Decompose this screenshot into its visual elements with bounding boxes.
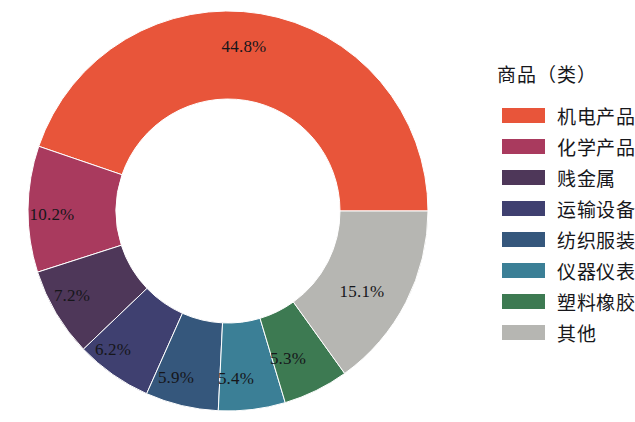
slice-percentage-label: 44.8% xyxy=(222,37,267,57)
legend-item-label: 运输设备 xyxy=(557,195,635,222)
legend-item[interactable]: 贱金属 xyxy=(470,163,630,191)
legend-color-swatch xyxy=(502,201,545,216)
legend-item-label: 纺织服装 xyxy=(557,226,635,253)
legend-item-label: 仪器仪表 xyxy=(557,257,635,284)
legend-item[interactable]: 纺织服装 xyxy=(470,225,630,253)
legend-color-swatch xyxy=(502,232,545,247)
legend-item[interactable]: 运输设备 xyxy=(470,194,630,222)
legend-color-swatch xyxy=(502,325,545,340)
legend-item-label: 塑料橡胶 xyxy=(557,288,635,315)
legend-title: 商品（类） xyxy=(470,60,630,87)
legend-color-swatch xyxy=(502,139,545,154)
donut-slice-group xyxy=(28,11,428,411)
legend-item-label: 其他 xyxy=(557,319,596,346)
legend-color-swatch xyxy=(502,108,545,123)
slice-percentage-label: 5.9% xyxy=(158,368,194,388)
legend-item[interactable]: 仪器仪表 xyxy=(470,256,630,284)
slice-percentage-label: 15.1% xyxy=(340,282,385,302)
slice-percentage-label: 10.2% xyxy=(30,205,75,225)
chart-legend: 商品（类） 机电产品化学产品贱金属运输设备纺织服装仪器仪表塑料橡胶其他 xyxy=(470,60,630,349)
slice-percentage-label: 6.2% xyxy=(95,340,131,360)
legend-item-label: 贱金属 xyxy=(557,164,616,191)
legend-color-swatch xyxy=(502,170,545,185)
legend-item-list: 机电产品化学产品贱金属运输设备纺织服装仪器仪表塑料橡胶其他 xyxy=(470,101,630,346)
legend-item[interactable]: 化学产品 xyxy=(470,132,630,160)
donut-plot-area: 44.8%10.2%7.2%6.2%5.9%5.4%5.3%15.1% xyxy=(0,0,460,422)
slice-percentage-label: 5.3% xyxy=(270,349,306,369)
legend-color-swatch xyxy=(502,263,545,278)
slice-percentage-label: 7.2% xyxy=(54,286,90,306)
legend-item[interactable]: 机电产品 xyxy=(470,101,630,129)
legend-item-label: 机电产品 xyxy=(557,102,635,129)
slice-percentage-label: 5.4% xyxy=(218,369,254,389)
legend-item[interactable]: 其他 xyxy=(470,318,630,346)
legend-item-label: 化学产品 xyxy=(557,133,635,160)
legend-color-swatch xyxy=(502,294,545,309)
legend-item[interactable]: 塑料橡胶 xyxy=(470,287,630,315)
